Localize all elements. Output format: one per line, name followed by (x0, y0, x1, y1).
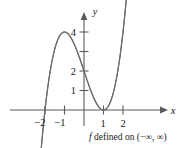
caption-body: defined on (−∞, ∞) (92, 132, 167, 143)
x-tick-label-2: 2 (120, 118, 125, 129)
y-tick-label-2: 2 (71, 66, 76, 77)
y-axis-label: y (92, 6, 98, 17)
x-axis-arrow-icon (160, 107, 168, 114)
x-tick-label-neg2: −2 (34, 117, 45, 128)
y-axis-arrow-icon (81, 12, 88, 20)
x-tick-label-1: 1 (100, 118, 105, 129)
x-axis-label: x (170, 105, 176, 116)
y-tick-label-1: 1 (71, 85, 76, 96)
y-tick-label-4: 4 (71, 27, 77, 38)
function-graph-figure: −2 −1 1 2 1 2 4 x y f defined on (−∞, ∞) (0, 0, 185, 148)
graph-canvas: −2 −1 1 2 1 2 4 x y f defined on (−∞, ∞) (0, 0, 185, 148)
x-tick-label-neg1: −1 (54, 117, 65, 128)
figure-caption: f defined on (−∞, ∞) (89, 132, 167, 143)
